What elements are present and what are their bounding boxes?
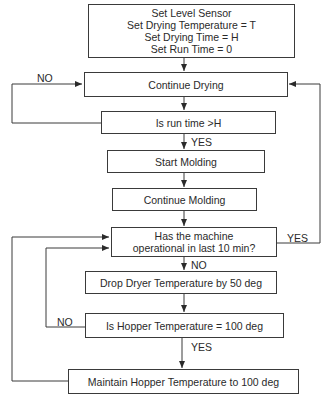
- init-line-3: Set Drying Time = H: [144, 31, 238, 43]
- continue-drying-label: Continue Drying: [148, 79, 223, 91]
- edge-label-operational-no: NO: [191, 259, 207, 271]
- start-molding-label: Start Molding: [155, 156, 217, 168]
- init-box: Set Level Sensor Set Drying Temperature …: [88, 4, 295, 58]
- arrow-maintain-loop: [12, 237, 109, 381]
- run-time-check-box: Is run time >H: [101, 111, 276, 134]
- hopper-check-box: Is Hopper Temperature = 100 deg: [85, 313, 284, 338]
- drop-temp-label: Drop Dryer Temperature by 50 deg: [100, 277, 262, 289]
- drop-temp-box: Drop Dryer Temperature by 50 deg: [85, 271, 277, 294]
- operational-check-box: Has the machine operational in last 10 m…: [111, 227, 277, 257]
- init-line-1: Set Level Sensor: [152, 7, 232, 19]
- edge-label-run-time-yes: YES: [191, 136, 212, 148]
- continue-drying-box: Continue Drying: [84, 72, 288, 97]
- continue-molding-box: Continue Molding: [112, 188, 257, 211]
- edge-label-hopper-no: NO: [57, 316, 73, 328]
- operational-check-line-2: operational in last 10 min?: [133, 242, 256, 254]
- edge-label-run-time-no: NO: [37, 72, 53, 84]
- hopper-check-label: Is Hopper Temperature = 100 deg: [106, 320, 263, 332]
- arrow-operational-yes-loop: [277, 84, 320, 243]
- init-line-2: Set Drying Temperature = T: [127, 19, 256, 31]
- run-time-check-label: Is run time >H: [156, 117, 222, 129]
- edge-label-hopper-yes: YES: [191, 341, 212, 353]
- edge-label-operational-yes: YES: [287, 232, 308, 244]
- continue-molding-label: Continue Molding: [144, 194, 226, 206]
- maintain-temp-box: Maintain Hopper Temperature to 100 deg: [68, 369, 299, 394]
- operational-check-line-1: Has the machine: [155, 230, 234, 242]
- maintain-temp-label: Maintain Hopper Temperature to 100 deg: [88, 376, 279, 388]
- init-line-4: Set Run Time = 0: [151, 43, 232, 55]
- start-molding-box: Start Molding: [107, 150, 265, 173]
